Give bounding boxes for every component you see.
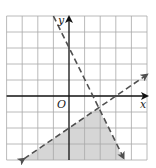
y-axis-label: y (57, 14, 65, 27)
inequality-graph: y x O (0, 0, 156, 168)
origin-label: O (57, 98, 66, 111)
x-axis-label: x (140, 98, 147, 111)
